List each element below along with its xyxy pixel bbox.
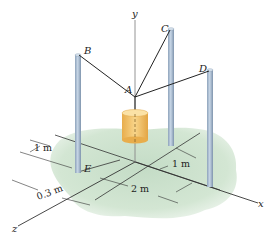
cables <box>79 30 209 112</box>
y-axis-label: y <box>131 8 138 19</box>
label-c: C <box>161 23 169 34</box>
dimension-1m-right: 1 m <box>172 158 190 169</box>
label-b: B <box>83 45 91 56</box>
z-axis-label: z <box>11 223 18 234</box>
dimension-0.3m: 0.3 m <box>35 182 64 202</box>
x-axis-label: x <box>258 198 264 209</box>
label-a: A <box>124 84 132 95</box>
pole-d <box>207 69 213 187</box>
label-e: E <box>83 163 92 174</box>
dimension-2m: 2 m <box>131 183 149 194</box>
label-d: D <box>198 63 207 74</box>
pole-b <box>75 54 81 173</box>
statics-diagram: x z y A B C D E <box>0 0 267 240</box>
pole-c <box>168 28 174 146</box>
dimension-1m-left: 1 m <box>34 142 52 153</box>
cylinder <box>122 110 148 144</box>
